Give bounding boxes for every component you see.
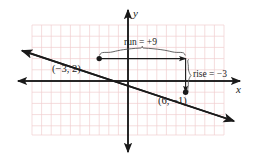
run-annotation-label: run = +9	[124, 38, 157, 48]
x-axis-label: x	[236, 84, 241, 95]
point-label-6-neg1: (6, −1)	[158, 96, 187, 107]
y-axis-label: y	[133, 8, 138, 19]
point-marker-a	[97, 56, 102, 61]
rise-brace	[188, 59, 191, 91]
slope-diagram-figure: y x (−3, 2) (6, −1) run = +9 rise = −3	[0, 0, 256, 158]
rise-annotation-label: rise = −3	[193, 70, 227, 80]
data-points	[97, 56, 189, 95]
point-label-neg3-2: (−3, 2)	[52, 64, 81, 75]
